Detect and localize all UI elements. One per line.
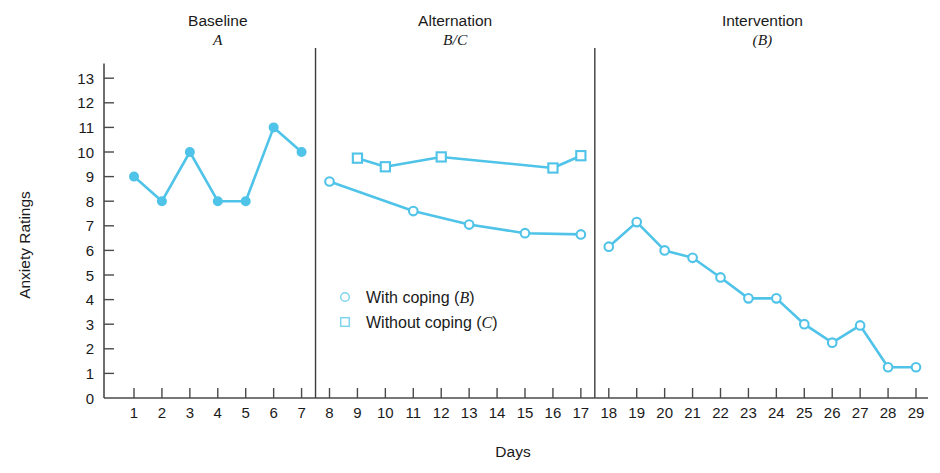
x-tick-label-27: 27	[852, 404, 869, 421]
data-point-filled-circle	[158, 197, 166, 205]
x-tick-label-6: 6	[269, 404, 277, 421]
data-point-open-circle	[409, 207, 418, 216]
data-marker-group	[130, 123, 921, 371]
phase-title-group: BaselineAAlternationB/CIntervention(B)	[188, 12, 803, 49]
x-tick-label-26: 26	[824, 404, 841, 421]
y-tick-label-10: 10	[77, 144, 94, 161]
legend-marker-1	[341, 293, 350, 302]
data-point-open-circle	[521, 229, 530, 238]
anxiety-ratings-figure: BaselineAAlternationB/CIntervention(B) 0…	[0, 0, 940, 473]
phase-subtitle-1: A	[212, 31, 223, 48]
data-point-open-circle	[884, 363, 893, 372]
single-case-design-line-chart: BaselineAAlternationB/CIntervention(B) 0…	[0, 0, 940, 473]
x-tick-label-12: 12	[433, 404, 450, 421]
phase-title-2: Alternation	[418, 12, 492, 29]
data-point-open-circle	[688, 253, 697, 262]
data-point-filled-circle	[186, 148, 194, 156]
x-tick-label-8: 8	[325, 404, 333, 421]
phase-divider-group	[316, 48, 595, 398]
data-point-open-circle	[604, 242, 613, 251]
x-tick-label-2: 2	[158, 404, 166, 421]
y-axis-title: Anxiety Ratings	[16, 191, 33, 299]
phase-title-1: Baseline	[188, 12, 247, 29]
data-point-open-circle	[716, 273, 725, 282]
x-tick-label-4: 4	[214, 404, 222, 421]
x-tick-label-13: 13	[461, 404, 478, 421]
x-tick-label-1: 1	[130, 404, 138, 421]
x-tick-label-10: 10	[377, 404, 394, 421]
x-tick-label-28: 28	[880, 404, 897, 421]
x-tick-label-3: 3	[186, 404, 194, 421]
y-tick-label-0: 0	[86, 390, 94, 407]
data-point-open-circle	[856, 321, 865, 330]
y-tick-label-1: 1	[86, 365, 94, 382]
x-tick-label-5: 5	[242, 404, 250, 421]
x-tick-label-14: 14	[489, 404, 506, 421]
data-point-filled-circle	[297, 148, 305, 156]
legend-marker-2	[341, 318, 350, 327]
x-tick-label-24: 24	[768, 404, 785, 421]
data-point-open-circle	[912, 363, 921, 372]
x-tick-label-19: 19	[628, 404, 645, 421]
y-tick-label-2: 2	[86, 340, 94, 357]
x-tick-label-11: 11	[405, 404, 421, 421]
x-tick-label-16: 16	[545, 404, 562, 421]
data-point-filled-circle	[214, 197, 222, 205]
y-tick-label-4: 4	[86, 291, 94, 308]
data-point-filled-circle	[269, 123, 277, 131]
data-point-open-circle	[325, 177, 334, 186]
phase-subtitle-3: (B)	[752, 31, 772, 49]
data-point-open-circle	[660, 246, 669, 255]
data-point-open-square	[576, 151, 585, 160]
data-point-filled-circle	[130, 172, 138, 180]
y-axis-ticks	[104, 78, 114, 373]
x-axis-tick-labels: 1234567891011121314151617181920212223242…	[130, 404, 925, 421]
data-point-open-circle	[800, 320, 809, 329]
x-axis-ticks	[134, 388, 916, 398]
data-point-open-circle	[744, 294, 753, 303]
legend-label-1: With coping (B)	[366, 289, 474, 306]
caption-strip	[0, 455, 940, 473]
x-tick-label-23: 23	[740, 404, 757, 421]
x-tick-label-18: 18	[600, 404, 617, 421]
series-line-4	[609, 222, 916, 367]
y-tick-label-5: 5	[86, 267, 94, 284]
y-tick-label-3: 3	[86, 316, 94, 333]
data-point-open-circle	[828, 338, 837, 347]
data-point-open-square	[437, 152, 446, 161]
data-point-open-circle	[465, 220, 474, 229]
x-tick-label-29: 29	[908, 404, 925, 421]
y-tick-label-7: 7	[86, 217, 94, 234]
data-point-open-circle	[632, 218, 641, 227]
phase-title-3: Intervention	[722, 12, 803, 29]
legend: With coping (B)Without coping (C)	[341, 289, 498, 331]
data-point-open-circle	[577, 230, 586, 239]
y-tick-label-6: 6	[86, 242, 94, 259]
data-point-filled-circle	[242, 197, 250, 205]
x-tick-label-21: 21	[684, 404, 701, 421]
series-line-2	[330, 182, 581, 235]
y-tick-label-8: 8	[86, 193, 94, 210]
phase-subtitle-2: B/C	[443, 31, 468, 48]
x-tick-label-15: 15	[517, 404, 534, 421]
x-tick-label-22: 22	[712, 404, 729, 421]
data-point-open-square	[381, 162, 390, 171]
series-line-1	[134, 127, 302, 201]
legend-label-2: Without coping (C)	[366, 314, 498, 331]
y-tick-label-11: 11	[78, 119, 94, 136]
x-tick-label-9: 9	[353, 404, 361, 421]
y-tick-label-12: 12	[77, 94, 94, 111]
data-point-open-circle	[772, 294, 781, 303]
data-point-open-square	[548, 163, 557, 172]
x-tick-label-17: 17	[573, 404, 590, 421]
x-tick-label-20: 20	[656, 404, 673, 421]
data-series-group	[134, 127, 916, 367]
x-tick-label-7: 7	[297, 404, 305, 421]
data-point-open-square	[353, 154, 362, 163]
x-tick-label-25: 25	[796, 404, 813, 421]
y-tick-label-9: 9	[86, 168, 94, 185]
y-axis-tick-labels: 012345678910111213	[77, 70, 94, 407]
y-tick-label-13: 13	[77, 70, 94, 87]
